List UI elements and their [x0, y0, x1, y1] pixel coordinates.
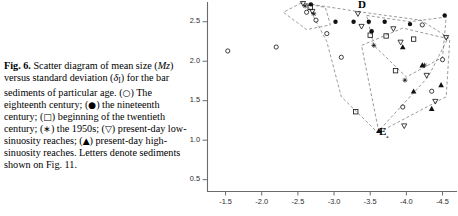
figure-container: Fig. 6. Scatter diagram of mean size (Mz… — [0, 0, 458, 216]
data-point-open-square — [411, 37, 415, 41]
data-point-open-triangle-down — [359, 24, 364, 29]
y-tick-label: 1.0 — [190, 135, 200, 144]
data-point-open-circle — [304, 10, 308, 14]
y-tick-label: 2.0 — [190, 56, 200, 65]
data-point-filled-circle — [408, 22, 412, 26]
annotation-label: E₂ — [379, 125, 389, 140]
series-asterisk — [303, 4, 427, 83]
annotation-subscript: ₂ — [386, 130, 389, 139]
data-point-open-triangle-down — [391, 27, 396, 32]
x-tick-label: -4.0 — [400, 197, 413, 206]
data-point-open-circle — [430, 89, 434, 93]
envelope-polygons — [283, 3, 449, 133]
data-point-filled-circle — [333, 20, 337, 24]
envelope-upper-left — [283, 3, 330, 30]
data-point-asterisk — [403, 78, 408, 83]
data-point-filled-circle — [367, 20, 371, 24]
series-open-square — [308, 5, 416, 114]
data-point-open-square — [393, 68, 397, 72]
annotation-main: E — [379, 125, 386, 137]
data-point-open-triangle-down — [402, 124, 407, 129]
y-tick-label: 0.5 — [190, 174, 200, 183]
scatter-plot: 0.51.01.52.02.5 -1.5-2.0-2.5-3.0-3.5-4.0… — [0, 0, 458, 216]
x-tick-label: -2.0 — [255, 197, 268, 206]
data-point-open-square — [368, 33, 372, 37]
x-tick-label: -1.5 — [219, 197, 232, 206]
data-point-filled-triangle-up — [438, 82, 444, 87]
data-point-open-circle — [325, 31, 329, 35]
envelope-right — [367, 15, 447, 77]
annotation-label: D — [358, 0, 366, 10]
data-point-open-triangle-down — [433, 99, 438, 104]
axes — [207, 2, 457, 192]
data-point-open-circle — [274, 45, 278, 49]
data-point-filled-circle — [382, 20, 386, 24]
data-point-asterisk — [371, 43, 376, 48]
data-point-open-triangle-down — [355, 12, 360, 17]
data-point-open-triangle-down — [398, 40, 403, 45]
data-point-open-circle — [226, 49, 230, 53]
plot-svg: 0.51.01.52.02.5 -1.5-2.0-2.5-3.0-3.5-4.0… — [0, 0, 458, 216]
data-point-open-circle — [401, 105, 405, 109]
y-axis-ticks: 0.51.01.52.02.5 — [190, 16, 208, 183]
data-point-open-triangle-down — [424, 73, 429, 78]
x-tick-label: -3.0 — [328, 197, 341, 206]
data-point-filled-circle — [351, 20, 355, 24]
data-point-filled-triangle-up — [429, 106, 435, 111]
y-tick-label: 2.5 — [190, 16, 200, 25]
x-tick-label: -3.5 — [364, 197, 377, 206]
data-point-open-circle — [440, 58, 444, 62]
x-axis-ticks: -1.5-2.0-2.5-3.0-3.5-4.0-4.5 — [219, 192, 449, 207]
y-tick-label: 1.5 — [190, 95, 200, 104]
data-point-open-square — [354, 110, 358, 114]
data-point-open-circle — [420, 23, 424, 27]
data-point-filled-triangle-up — [411, 88, 417, 93]
data-point-open-circle — [339, 55, 343, 59]
envelope-main — [307, 4, 449, 133]
x-tick-label: -4.5 — [436, 197, 449, 206]
data-point-filled-circle — [443, 13, 447, 17]
x-tick-label: -2.5 — [292, 197, 305, 206]
